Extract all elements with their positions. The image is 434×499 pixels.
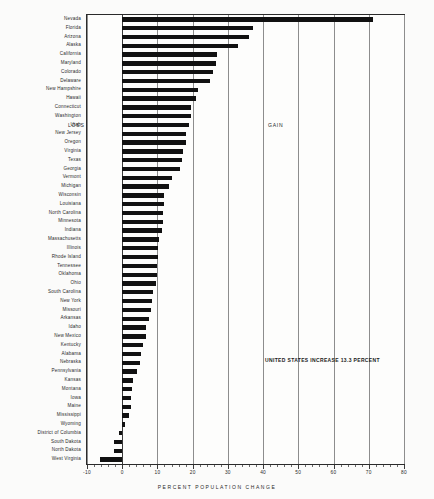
x-minor-tick (94, 465, 95, 467)
bar-row (87, 121, 404, 130)
bar-row (87, 314, 404, 323)
gridline-80 (404, 15, 405, 464)
bar-row (87, 376, 404, 385)
bar (122, 308, 151, 312)
x-minor-tick (172, 465, 173, 467)
category-label: New Mexico (54, 332, 81, 341)
x-minor-tick (143, 465, 144, 467)
x-minor-tick (348, 465, 349, 467)
bar (122, 114, 191, 118)
bar-row (87, 411, 404, 420)
bar-row (87, 129, 404, 138)
bar (122, 44, 238, 48)
bar-row (87, 455, 404, 464)
x-minor-tick (277, 465, 278, 467)
category-label: Texas (68, 156, 81, 165)
bar-row (87, 323, 404, 332)
x-tick-label: 0 (121, 470, 124, 475)
bar (122, 405, 130, 409)
x-minor-tick (341, 465, 342, 467)
x-tick (122, 465, 123, 469)
category-label: Wisconsin (58, 191, 81, 200)
bar (122, 184, 169, 188)
x-minor-tick (270, 465, 271, 467)
bar-row (87, 209, 404, 218)
category-label: Colorado (61, 68, 81, 77)
category-label: District of Columbia (38, 429, 81, 438)
bar (122, 299, 152, 303)
category-label: Montana (62, 385, 81, 394)
x-minor-tick (376, 465, 377, 467)
bar (122, 413, 128, 417)
bar-row (87, 24, 404, 33)
category-label: Arizona (64, 33, 81, 42)
bar-row (87, 341, 404, 350)
category-label: Rhode Island (52, 253, 81, 262)
bar-row (87, 217, 404, 226)
category-label: Iowa (71, 394, 81, 403)
x-minor-tick (235, 465, 236, 467)
bar-row (87, 244, 404, 253)
category-label: Pennsylvania (52, 367, 82, 376)
bar (122, 317, 149, 321)
x-tick-label: 70 (366, 470, 372, 475)
bar-row (87, 112, 404, 121)
category-label: North Carolina (49, 209, 81, 218)
category-label: Oregon (65, 138, 81, 147)
x-tick (404, 465, 405, 469)
bar-row (87, 41, 404, 50)
bar-row (87, 173, 404, 182)
bar-row (87, 332, 404, 341)
bar (122, 255, 158, 259)
bar (122, 396, 130, 400)
category-label: Oklahoma (59, 270, 81, 279)
bar-row (87, 15, 404, 24)
x-minor-tick (207, 465, 208, 467)
x-tick (157, 465, 158, 469)
bar (122, 123, 189, 127)
bar (122, 26, 253, 30)
category-label: Louisiana (60, 200, 81, 209)
bar (122, 132, 186, 136)
x-minor-tick (291, 465, 292, 467)
bar-row (87, 270, 404, 279)
category-label: New Hampshire (46, 85, 81, 94)
category-label: Nevada (64, 15, 81, 24)
bar-row (87, 446, 404, 455)
x-tick (263, 465, 264, 469)
bar (122, 387, 132, 391)
bar (122, 334, 146, 338)
x-minor-tick (284, 465, 285, 467)
category-label: Alabama (62, 350, 81, 359)
bar (122, 193, 164, 197)
gain-label: GAIN (268, 122, 283, 128)
plot-area (86, 14, 405, 465)
category-label: Georgia (63, 165, 81, 174)
x-minor-tick (108, 465, 109, 467)
bar (122, 211, 163, 215)
category-label: Missouri (62, 306, 81, 315)
bar (122, 176, 172, 180)
category-label: Washington (55, 112, 81, 121)
category-label: Idaho (69, 323, 81, 332)
x-minor-tick (397, 465, 398, 467)
bar (122, 343, 143, 347)
bar (122, 96, 196, 100)
bar (122, 105, 191, 109)
bar (122, 61, 215, 65)
us-increase-note: UNITED STATES INCREASE 13.3 PERCENT (265, 357, 380, 363)
bar (122, 140, 186, 144)
x-tick-label: 60 (331, 470, 337, 475)
bar (122, 52, 217, 56)
x-tick-label: 30 (225, 470, 231, 475)
category-label: Virginia (64, 147, 81, 156)
category-label: Michigan (61, 182, 81, 191)
bar-row (87, 253, 404, 262)
category-label: Delaware (60, 77, 81, 86)
bar-row (87, 306, 404, 315)
category-axis-labels: NevadaFloridaArizonaAlaskaCaliforniaMary… (0, 14, 84, 465)
bar (122, 422, 124, 426)
x-tick (193, 465, 194, 469)
bar (122, 246, 158, 250)
bar-row (87, 200, 404, 209)
